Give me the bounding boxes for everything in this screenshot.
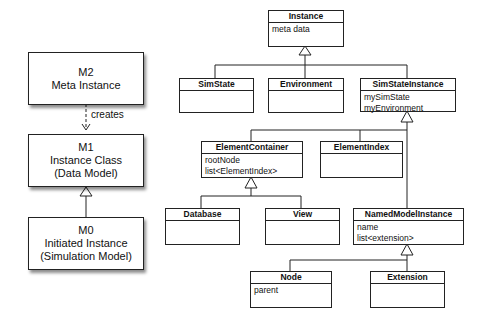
class-instance: Instance meta data [268, 10, 344, 47]
creates-label: creates [91, 109, 124, 120]
class-name: ElementIndex [321, 142, 402, 154]
m1-note: (Data Model) [29, 167, 143, 180]
class-attr: list<extension> [357, 233, 460, 244]
m2-subtitle: Meta Instance [29, 79, 143, 92]
class-node: Node parent [250, 271, 332, 308]
m0-note: (Simulation Model) [29, 250, 143, 263]
class-name: Instance [269, 11, 343, 23]
class-elementindex: ElementIndex [320, 141, 403, 178]
class-name: SimStateInstance [361, 79, 455, 91]
class-name: Node [251, 272, 331, 284]
meta-level-m0-box: M0 Initiated Instance (Simulation Model) [28, 217, 144, 270]
class-elementcontainer: ElementContainer rootNode list<ElementIn… [201, 141, 303, 178]
class-namedmodelinstance: NamedModelInstance name list<extension> [353, 208, 464, 245]
class-attr: rootNode [205, 155, 299, 166]
class-attr: mySimState [364, 92, 452, 103]
class-view: View [265, 208, 340, 245]
m1-subtitle: Instance Class [29, 154, 143, 167]
m1-title: M1 [29, 141, 143, 154]
class-name: ElementContainer [202, 142, 302, 154]
class-attr: meta data [272, 24, 340, 35]
class-attr: name [357, 222, 460, 233]
class-attr: parent [254, 285, 328, 296]
class-name: View [266, 209, 339, 221]
class-environment: Environment [268, 78, 344, 113]
class-extension: Extension [370, 271, 445, 308]
class-name: Extension [371, 272, 444, 284]
meta-level-m2-box: M2 Meta Instance [28, 52, 144, 105]
class-name: Environment [269, 79, 343, 91]
class-name: SimState [180, 79, 253, 91]
class-simstate: SimState [179, 78, 254, 113]
m0-subtitle: Initiated Instance [29, 237, 143, 250]
class-name: Database [166, 209, 239, 221]
class-attr: list<ElementIndex> [205, 166, 299, 177]
meta-level-m1-box: M1 Instance Class (Data Model) [28, 134, 144, 187]
class-database: Database [165, 208, 240, 245]
m0-title: M0 [29, 224, 143, 237]
m2-title: M2 [29, 66, 143, 79]
class-attr: myEnvironment [364, 103, 452, 114]
class-name: NamedModelInstance [354, 209, 463, 221]
class-simstateinstance: SimStateInstance mySimState myEnvironmen… [360, 78, 456, 112]
